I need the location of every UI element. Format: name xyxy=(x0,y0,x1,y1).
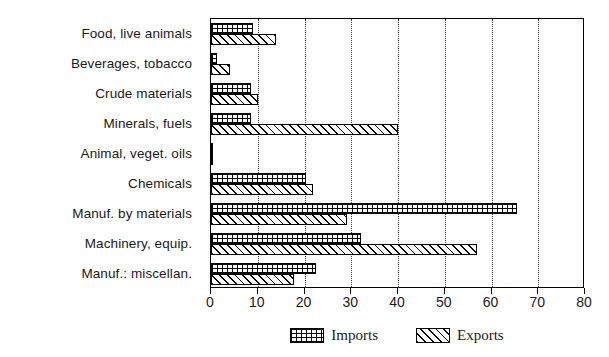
category-axis-labels: Food, live animalsBeverages, tobaccoCrud… xyxy=(0,18,200,288)
x-tick-label: 20 xyxy=(296,294,312,310)
category-label: Food, live animals xyxy=(81,26,192,41)
legend-swatch-exports-icon xyxy=(416,328,450,343)
legend-swatch-imports-icon xyxy=(290,328,324,343)
gridline-70 xyxy=(538,19,539,287)
x-tick-label: 30 xyxy=(342,294,358,310)
legend-label: Exports xyxy=(457,327,504,344)
bar-exports xyxy=(211,274,294,285)
category-label: Minerals, fuels xyxy=(103,116,192,131)
x-tick-label: 70 xyxy=(529,294,545,310)
bar-imports xyxy=(211,173,306,184)
x-tick-label: 10 xyxy=(249,294,265,310)
bar-chart: Food, live animalsBeverages, tobaccoCrud… xyxy=(0,0,609,357)
category-label: Machinery, equip. xyxy=(85,236,192,251)
legend-item-exports: Exports xyxy=(416,327,504,344)
bar-exports xyxy=(211,124,398,135)
bar-imports xyxy=(211,143,213,154)
category-label: Chemicals xyxy=(128,176,192,191)
bar-imports xyxy=(211,23,253,34)
x-tick-label: 60 xyxy=(483,294,499,310)
bar-exports xyxy=(211,34,276,45)
plot-area xyxy=(210,18,584,288)
bar-imports xyxy=(211,83,251,94)
category-label: Manuf. by materials xyxy=(72,206,192,221)
bar-imports xyxy=(211,113,251,124)
bar-exports xyxy=(211,154,213,165)
category-label: Animal, veget. oils xyxy=(81,146,192,161)
x-tick-label: 0 xyxy=(206,294,214,310)
bar-imports xyxy=(211,263,316,274)
x-tick-label: 80 xyxy=(576,294,592,310)
category-label: Beverages, tobacco xyxy=(71,56,192,71)
legend-label: Imports xyxy=(331,327,378,344)
legend-item-imports: Imports xyxy=(290,327,378,344)
bar-exports xyxy=(211,214,347,225)
x-tick-label: 50 xyxy=(436,294,452,310)
bar-exports xyxy=(211,244,477,255)
bar-exports xyxy=(211,94,258,105)
plot-inner xyxy=(211,19,583,287)
bar-imports xyxy=(211,203,517,214)
chart-legend: ImportsExports xyxy=(210,322,584,348)
bar-imports xyxy=(211,233,361,244)
category-label: Manuf.: miscellan. xyxy=(81,266,192,281)
bar-exports xyxy=(211,184,313,195)
bar-exports xyxy=(211,64,230,75)
bar-imports xyxy=(211,53,217,64)
category-label: Crude materials xyxy=(95,86,192,101)
x-tick-label: 40 xyxy=(389,294,405,310)
gridline-60 xyxy=(492,19,493,287)
